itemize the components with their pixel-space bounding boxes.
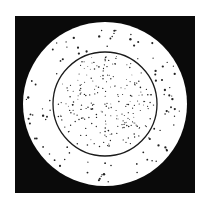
diagram bbox=[0, 0, 207, 207]
